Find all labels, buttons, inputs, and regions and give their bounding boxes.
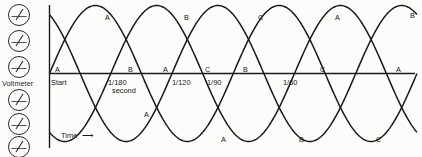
time-axis-label: Time⟶ [61, 131, 93, 140]
axis-phase-label-5: C [320, 65, 325, 74]
peak-label-0: A [105, 13, 110, 22]
unit-label: second [112, 86, 136, 95]
axis-phase-label-6: A [396, 65, 401, 74]
trough-label-2: B [299, 135, 304, 144]
tick-1-120: 1/120 [172, 78, 191, 87]
time-axis-text: Time [61, 131, 78, 140]
peak-label-3: A [335, 13, 340, 22]
trough-label-1: A [221, 135, 226, 144]
tick-1-60: 1/60 [283, 78, 297, 87]
peak-label-4: B [410, 11, 415, 20]
peak-label-2: C [258, 13, 263, 22]
tick-start: Start [51, 78, 67, 87]
peak-label-1: B [184, 13, 189, 22]
time-axis-arrow: ⟶ [82, 131, 93, 140]
axis-phase-label-3: C [205, 65, 210, 74]
trough-label-3: C [376, 135, 381, 144]
axis-phase-label-1: B [128, 65, 133, 74]
axis-phase-label-4: B [243, 65, 248, 74]
trough-label-0: A [144, 110, 149, 119]
tick-1-90: 1/90 [207, 78, 221, 87]
three-phase-waveform-diagram: Voltmeter ABCAB ABACBCA AABC Start1/1801… [0, 0, 422, 157]
axis-phase-label-2: A [163, 65, 168, 74]
axis-phase-label-0: A [55, 65, 60, 74]
